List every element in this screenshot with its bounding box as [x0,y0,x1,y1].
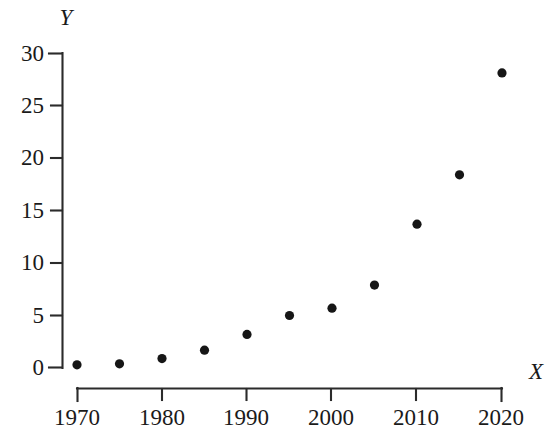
data-point [497,68,506,77]
data-point [157,354,166,363]
data-point [72,360,81,369]
y-axis-title: Y [60,5,75,30]
data-point [370,280,379,289]
y-tick-label-30: 30 [21,41,44,66]
plot-canvas: 30 25 20 15 10 5 0 1970 1980 1990 2000 2… [0,0,552,429]
data-points-group [72,68,506,369]
y-tick-label-25: 25 [21,93,44,118]
data-point [412,220,421,229]
x-tick-label-1980: 1980 [139,405,185,429]
x-tick-label-2000: 2000 [308,405,354,429]
x-axis-title: X [528,359,544,384]
x-tick-label-1970: 1970 [54,405,100,429]
data-point [285,311,294,320]
data-point [200,346,209,355]
data-point [327,304,336,313]
y-tick-label-10: 10 [21,250,44,275]
scatter-plot-figure: 30 25 20 15 10 5 0 1970 1980 1990 2000 2… [0,0,552,429]
data-point [455,170,464,179]
x-tick-label-1990: 1990 [223,405,269,429]
x-tick-label-2020: 2020 [478,405,524,429]
y-tick-label-0: 0 [33,355,45,380]
y-tick-label-20: 20 [21,145,44,170]
y-tick-label-5: 5 [33,303,45,328]
x-tick-label-2010: 2010 [393,405,439,429]
data-point [242,330,251,339]
data-point [115,359,124,368]
y-tick-label-15: 15 [21,198,44,223]
